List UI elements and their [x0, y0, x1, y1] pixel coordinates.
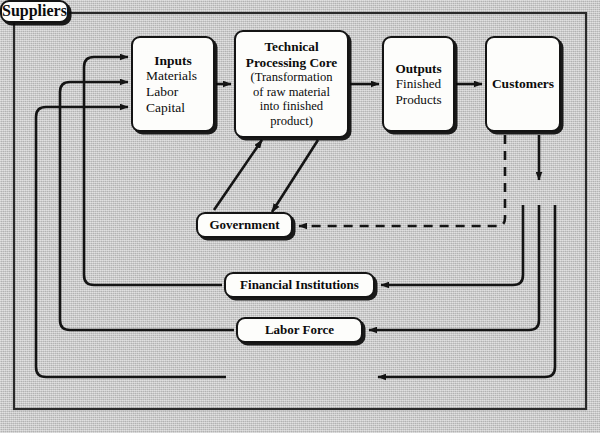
- node-suppliers[interactable]: Suppliers: [0, 0, 69, 23]
- edge-regulations: [214, 140, 262, 210]
- node-outputs-line-2: Products: [395, 92, 441, 107]
- node-outputs[interactable]: Outputs Finished Products: [382, 36, 455, 132]
- node-customers[interactable]: Customers: [485, 36, 561, 132]
- edge-lobbying: [272, 140, 318, 212]
- edge-payment-to-creditors: [378, 205, 555, 377]
- node-outputs-title: Outputs: [395, 61, 441, 76]
- node-customers-title: Customers: [492, 76, 554, 92]
- node-suppliers-title: Suppliers: [2, 2, 67, 21]
- edge-suppliers-to-inputs: [36, 107, 226, 377]
- node-outputs-line-1: Finished: [396, 76, 441, 91]
- edge-consumer-advocacy: [299, 135, 505, 226]
- node-financial-institutions[interactable]: Financial Institutions: [224, 272, 375, 298]
- node-core-line-2: of raw material: [253, 85, 330, 100]
- figure-canvas: Inputs Materials Labor Capital Technical…: [0, 0, 600, 433]
- node-core-line-3: into finished: [260, 99, 323, 114]
- node-inputs-title: Inputs: [154, 53, 192, 69]
- edge-wages: [369, 205, 539, 330]
- node-government-title: Government: [209, 217, 279, 232]
- node-government[interactable]: Government: [196, 212, 293, 238]
- node-inputs-line-1: Materials: [146, 68, 197, 84]
- node-core-line-4: product): [270, 114, 313, 129]
- edge-repayment-of-loans: [381, 205, 523, 285]
- node-technical-processing-core[interactable]: Technical Processing Core (Transformatio…: [234, 30, 349, 138]
- node-inputs-line-3: Capital: [146, 100, 197, 116]
- node-inputs[interactable]: Inputs Materials Labor Capital: [131, 36, 215, 132]
- node-labor-force[interactable]: Labor Force: [236, 317, 363, 343]
- node-labor-force-title: Labor Force: [265, 322, 334, 337]
- node-financial-institutions-title: Financial Institutions: [240, 277, 359, 292]
- node-inputs-line-2: Labor: [146, 84, 197, 100]
- node-core-title-line-1: Technical: [264, 39, 318, 54]
- node-core-line-1: (Transformation: [250, 70, 332, 85]
- node-core-title-line-2: Processing Core: [246, 55, 337, 70]
